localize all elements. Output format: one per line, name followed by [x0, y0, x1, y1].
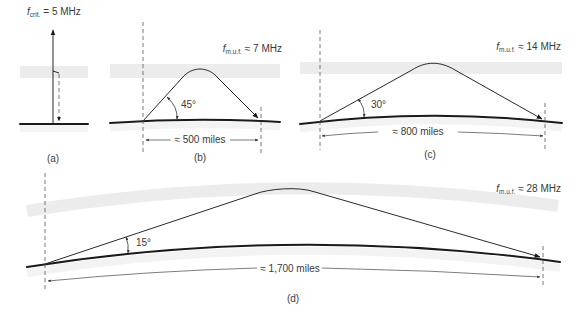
panel-a: fcrit.= 5 MHz (a) — [20, 6, 88, 164]
distance-dimension-line-left — [48, 268, 257, 281]
ground-shade — [110, 125, 280, 128]
takeoff-angle-label: 30° — [371, 99, 386, 110]
distance-dimension-line-left — [322, 132, 378, 136]
skywave-propagation-figure: fcrit.= 5 MHz (a) 45° fm.u.f.≈ 7 MHz ≈ 5… — [0, 0, 580, 320]
panel-caption: (d) — [287, 293, 299, 304]
panel-caption: (b) — [194, 152, 206, 163]
distance-label: ≈ 800 miles — [392, 126, 443, 137]
panel-caption: (c) — [424, 149, 436, 160]
distance-label: ≈ 1,700 miles — [260, 263, 319, 274]
panel-caption: (a) — [47, 153, 59, 164]
distance-dimension-line-right — [458, 132, 543, 136]
distance-label: ≈ 500 miles — [174, 134, 225, 145]
ground-shade — [20, 125, 88, 132]
panel-b: 45° fm.u.f.≈ 7 MHz ≈ 500 miles (b) — [110, 22, 282, 163]
muf-frequency-label: fm.u.f.≈ 28 MHz — [496, 183, 561, 195]
distance-dimension-line-right — [322, 268, 540, 277]
ionosphere-band — [20, 66, 88, 78]
takeoff-angle-arc — [126, 237, 128, 253]
critical-frequency-label: fcrit.= 5 MHz — [27, 6, 81, 18]
muf-frequency-label: fm.u.f.≈ 14 MHz — [496, 41, 561, 53]
ionosphere-band — [110, 64, 280, 78]
takeoff-angle-arc — [358, 99, 364, 117]
takeoff-angle-label: 45° — [181, 99, 196, 110]
panel-c: 30° fm.u.f.≈ 14 MHz ≈ 800 miles (c) — [300, 30, 562, 160]
panel-d: 15° fm.u.f.≈ 28 MHz ≈ 1,700 miles (d) — [27, 173, 561, 304]
takeoff-angle-label: 15° — [136, 237, 151, 248]
figure-canvas: fcrit.= 5 MHz (a) 45° fm.u.f.≈ 7 MHz ≈ 5… — [0, 0, 580, 320]
muf-frequency-label: fm.u.f.≈ 7 MHz — [223, 43, 282, 55]
ionosphere-band — [27, 188, 558, 211]
takeoff-angle-arc — [167, 97, 177, 119]
